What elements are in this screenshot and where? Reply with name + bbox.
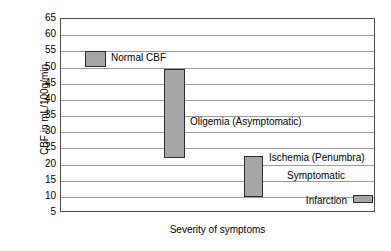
series-annotations: Normal CBF Oligemia (Asymptomatic) Ische… [61,19,374,211]
y-tick-label: 15 [12,175,56,185]
y-tick-label: 35 [12,110,56,120]
y-tick-label: 5 [12,207,56,217]
annotation-infarction: Infarction [233,195,347,207]
annotation-ischemia: Ischemia (Penumbra) [269,152,365,164]
annotation-symptomatic: Symptomatic [257,170,375,182]
annotation-oligemia: Oligemia (Asymptomatic) [190,116,302,128]
plot-area: Normal CBF Oligemia (Asymptomatic) Ische… [60,18,375,212]
y-tick-label: 40 [12,94,56,104]
cbf-severity-chart: CBF in mL/100g/min 65 60 55 50 45 40 35 … [0,0,391,251]
y-tick-label: 50 [12,62,56,72]
y-tick-label: 65 [12,13,56,23]
y-tick-label: 60 [12,29,56,39]
y-tick-label: 25 [12,142,56,152]
annotation-normal-cbf: Normal CBF [111,52,166,64]
x-axis-title: Severity of symptoms [60,224,375,235]
y-tick-label: 30 [12,126,56,136]
y-tick-label: 20 [12,159,56,169]
y-tick-label: 55 [12,45,56,55]
y-tick-label: 10 [12,191,56,201]
y-axis-tick-labels: 65 60 55 50 45 40 35 30 25 20 15 10 5 [10,18,56,212]
y-tick-label: 45 [12,78,56,88]
